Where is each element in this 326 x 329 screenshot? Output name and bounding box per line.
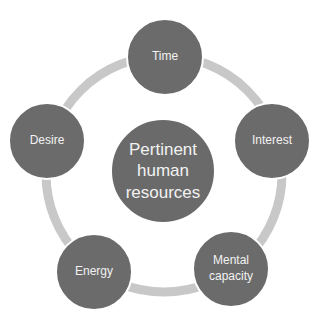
node-interest: Interest — [233, 102, 311, 180]
node-label: Energy — [75, 264, 113, 280]
node-label: Mental capacity — [203, 253, 259, 284]
center-label: Pertinent human resources — [121, 139, 205, 203]
node-mental-capacity: Mental capacity — [192, 230, 270, 308]
node-label: Desire — [30, 133, 65, 149]
node-time: Time — [126, 18, 204, 96]
node-desire: Desire — [8, 102, 86, 180]
center-node: Pertinent human resources — [110, 118, 216, 224]
node-label: Time — [152, 49, 178, 65]
node-label: Interest — [252, 133, 292, 149]
node-energy: Energy — [55, 233, 133, 311]
